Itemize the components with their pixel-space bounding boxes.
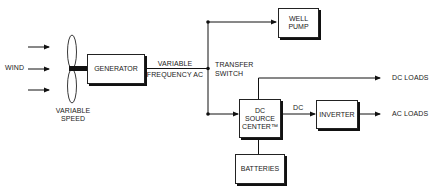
dc-source-line1: DC [255,107,265,115]
generator-label: GENERATOR [94,65,138,73]
well-pump-line2: PUMP [288,23,308,31]
diagram-wires [0,0,432,191]
wind-arrows [28,47,49,90]
well-pump-line1: WELL [289,15,308,23]
ac-loads-label: AC LOADS [392,110,428,118]
variable-speed-line2: SPEED [54,115,92,123]
vfac-line1: VARIABLE [146,60,204,68]
variable-frequency-ac-label: VARIABLE FREQUENCY AC [146,60,204,79]
transfer-switch-line2: SWITCH [215,70,254,78]
inverter-label: INVERTER [319,111,354,119]
batteries-label: BATTERIES [241,165,279,173]
wind-label: WIND [5,64,24,72]
variable-speed-line1: VARIABLE [54,107,92,115]
transfer-switch-label: TRANSFER SWITCH [215,61,254,78]
batteries-block: BATTERIES [235,154,285,184]
vfac-line2: FREQUENCY AC [146,71,204,79]
transfer-switch-line1: TRANSFER [215,61,254,69]
variable-speed-label: VARIABLE SPEED [54,107,92,123]
dc-source-line3: CENTER™ [242,123,278,131]
dc-source-line2: SOURCE [245,115,275,123]
generator-block: GENERATOR [87,54,145,84]
dc-source-center-block: DC SOURCE CENTER™ [239,99,281,138]
dc-loads-label: DC LOADS [392,74,429,82]
dc-link-label: DC [293,104,303,112]
inverter-block: INVERTER [316,100,358,129]
well-pump-block: WELL PUMP [278,8,319,38]
drive-shaft [69,66,88,71]
